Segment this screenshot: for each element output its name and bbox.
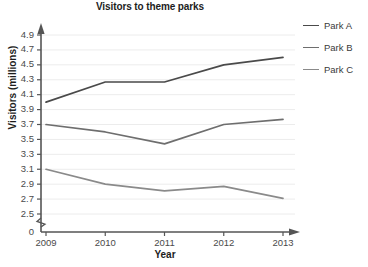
legend-item-park-b[interactable]: Park B	[303, 36, 353, 58]
x-tick-label: 2013	[263, 237, 303, 248]
y-tick-label: 4.7	[8, 43, 34, 54]
y-axis-arrow	[37, 23, 44, 34]
y-tick-label: 4.9	[8, 29, 34, 40]
x-tick-label: 2009	[26, 237, 66, 248]
chart-legend: Park APark BPark C	[303, 14, 353, 80]
y-tick-label: 3.7	[8, 118, 34, 129]
legend-line-swatch	[303, 47, 319, 48]
y-tick-label: 3.5	[8, 133, 34, 144]
y-tick-label: 2.9	[8, 178, 34, 189]
x-tick-label: 2011	[145, 237, 185, 248]
legend-line-swatch	[303, 69, 319, 70]
legend-item-park-a[interactable]: Park A	[303, 14, 353, 36]
y-tick-label: 4.5	[8, 58, 34, 69]
legend-item-label: Park A	[324, 20, 352, 31]
legend-item-label: Park C	[324, 64, 353, 75]
line-chart: Visitors to theme parks Visitors (millio…	[0, 0, 368, 267]
legend-item-label: Park B	[324, 42, 353, 53]
y-tick-label: 2.7	[8, 193, 34, 204]
x-tick-label: 2010	[85, 237, 125, 248]
y-tick-label: 3.3	[8, 148, 34, 159]
y-tick-label: 3.9	[8, 103, 34, 114]
x-tick-label: 2012	[204, 237, 244, 248]
y-tick-label: 3.1	[8, 163, 34, 174]
x-axis-arrow	[289, 228, 300, 235]
legend-line-swatch	[303, 25, 319, 26]
series-line-park-b	[46, 119, 283, 144]
y-tick-label: 2.5	[8, 208, 34, 219]
y-tick-label: 0	[8, 226, 34, 237]
legend-item-park-c[interactable]: Park C	[303, 58, 353, 80]
y-tick-label: 4.3	[8, 73, 34, 84]
y-tick-label: 4.1	[8, 88, 34, 99]
